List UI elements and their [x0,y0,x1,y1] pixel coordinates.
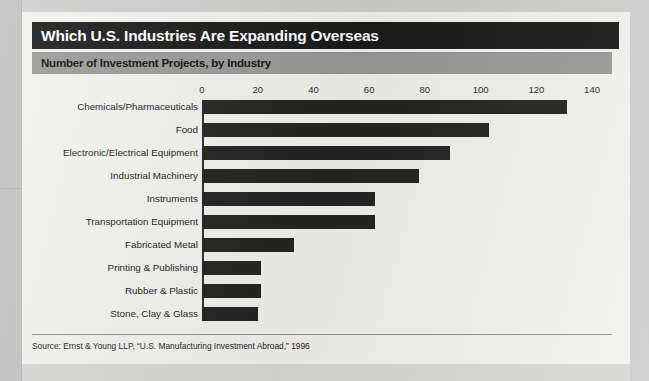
bar-row: Printing & Publishing [32,261,619,284]
margin-seam [0,188,22,189]
bar-row: Instruments [32,192,619,215]
bar-3 [202,169,419,183]
bar-row: Electronic/Electrical Equipment [32,146,619,169]
title-bar: Which U.S. Industries Are Expanding Over… [32,22,619,49]
bar-8 [202,284,261,298]
bar-0 [202,100,567,114]
bar-9 [202,307,258,321]
chart-subtitle: Number of Investment Projects, by Indust… [32,57,271,69]
x-axis-tick-40: 40 [308,84,319,95]
x-axis-tick-80: 80 [420,84,431,95]
bar-7 [202,261,261,275]
category-label-3: Industrial Machinery [110,170,198,181]
x-axis-tick-120: 120 [528,84,544,95]
chart-plot-area: 020406080100120140 Chemicals/Pharmaceuti… [32,78,619,328]
page-left-margin [0,0,22,381]
category-label-0: Chemicals/Pharmaceuticals [77,101,198,112]
page-bottom-edge [22,364,630,381]
page-root: Which U.S. Industries Are Expanding Over… [0,0,649,381]
category-label-2: Electronic/Electrical Equipment [63,147,198,158]
bar-rows: Chemicals/PharmaceuticalsFoodElectronic/… [32,100,619,330]
bar-6 [202,238,294,252]
category-label-9: Stone, Clay & Glass [110,308,198,319]
bar-row: Industrial Machinery [32,169,619,192]
bar-1 [202,123,489,137]
bar-row: Stone, Clay & Glass [32,307,619,330]
source-note: Source: Ernst & Young LLP, “U.S. Manufac… [32,341,310,351]
bar-2 [202,146,450,160]
bar-row: Food [32,123,619,146]
bar-row: Chemicals/Pharmaceuticals [32,100,619,123]
page-title: Which U.S. Industries Are Expanding Over… [32,27,379,45]
bar-row: Rubber & Plastic [32,284,619,307]
category-label-4: Instruments [147,193,198,204]
subtitle-bar: Number of Investment Projects, by Indust… [32,52,612,74]
bar-5 [202,215,375,229]
x-axis-tick-0: 0 [199,84,204,95]
bar-row: Fabricated Metal [32,238,619,261]
category-label-7: Printing & Publishing [108,262,198,273]
category-label-1: Food [176,124,198,135]
category-label-8: Rubber & Plastic [125,285,198,296]
x-axis-tick-labels: 020406080100120140 [32,84,619,98]
source-divider [32,334,612,335]
chart-card: Which U.S. Industries Are Expanding Over… [22,12,630,364]
x-axis-tick-140: 140 [584,84,600,95]
category-label-6: Fabricated Metal [125,239,198,250]
bar-4 [202,192,375,206]
bar-row: Transportation Equipment [32,215,619,238]
x-axis-tick-60: 60 [364,84,375,95]
x-axis-tick-100: 100 [473,84,489,95]
x-axis-tick-20: 20 [252,84,263,95]
category-label-5: Transportation Equipment [86,216,198,227]
